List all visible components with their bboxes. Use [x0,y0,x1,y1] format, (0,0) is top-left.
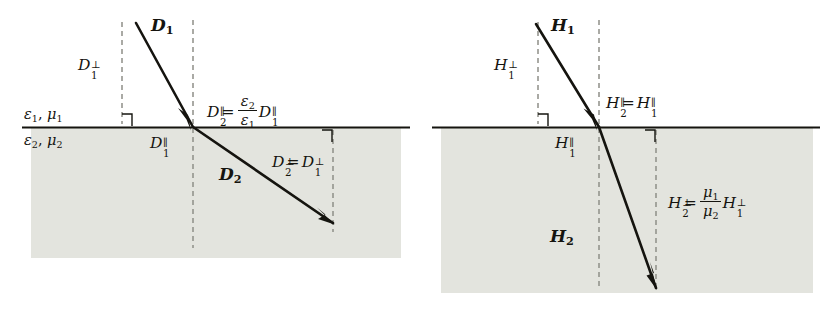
equation-d-parallel: D∥2=ε2ε1D∥1 [207,93,271,127]
incident-ray-d1 [136,23,193,127]
panel-d-graphics [0,0,416,318]
physics-figure: D1 D⊥1 ε1, μ1 ε2, μ2 D∥1 D∥2=ε2ε1D∥1 D⊥2… [0,0,832,318]
panel-h-graphics [416,0,832,318]
component-label-d1-perp: D⊥1 [78,58,90,74]
equation-h-parallel: H∥2=H∥1 [606,96,650,112]
vector-label-d2: D2 [219,166,242,183]
equation-d-perpendicular: D⊥2=D⊥1 [272,155,314,171]
vector-label-d1: D1 [151,17,174,34]
panel-h-field: H1 H⊥1 H∥2=H∥1 H∥1 H⊥2=μ1μ2H⊥1 H2 [416,0,832,318]
equation-h-perpendicular: H⊥2=μ1μ2H⊥1 [668,184,736,218]
panel-d-field: D1 D⊥1 ε1, μ1 ε2, μ2 D∥1 D∥2=ε2ε1D∥1 D⊥2… [0,0,416,318]
right-angle-marker-upper [538,114,548,126]
vector-label-h1: H1 [551,17,575,34]
medium-2-region [31,128,401,258]
medium-1-label: ε1, μ1 [24,107,63,122]
vector-label-h2: H2 [550,228,574,245]
component-label-d1-para: D∥1 [150,136,162,152]
medium-2-label: ε2, μ2 [24,133,63,148]
component-label-h1-para: H∥1 [555,136,569,152]
incident-ray-h1 [536,24,599,127]
right-angle-marker-upper [122,114,132,126]
medium-2-region [441,128,813,293]
component-label-h1-perp: H⊥1 [494,58,508,74]
